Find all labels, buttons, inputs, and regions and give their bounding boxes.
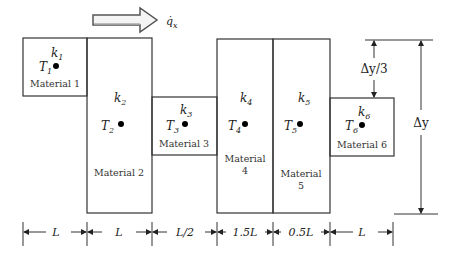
t6-label: T6	[345, 119, 358, 135]
width-5-label: 0.5L	[289, 226, 314, 239]
width-3-label: L/2	[175, 226, 194, 239]
k3-label: k3	[180, 103, 192, 119]
material-3-label: Material 3	[159, 138, 209, 149]
material-1-label: Material 1	[30, 78, 80, 89]
material-5-label: Material	[280, 168, 321, 179]
third-height-label: Δy/3	[360, 62, 387, 76]
t5-node	[297, 121, 303, 127]
t1-label: T1	[39, 60, 52, 76]
t3-label: T3	[166, 119, 179, 135]
material-2-label: Material 2	[94, 167, 144, 178]
t5-label: T5	[284, 119, 297, 135]
width-2-label: L	[114, 226, 122, 239]
t4-node	[242, 121, 248, 127]
width-6-label: L	[357, 226, 365, 239]
material-4-label: Material	[224, 153, 265, 164]
material-4-number: 4	[242, 165, 248, 176]
k2-label: k2	[114, 91, 126, 107]
k4-label: k4	[240, 91, 252, 107]
material-6-label: Material 6	[337, 139, 387, 150]
heat-flux-label: q̇x	[166, 15, 178, 30]
t1-node	[53, 63, 59, 69]
width-4-label: 1.5L	[233, 226, 258, 239]
t6-node	[359, 122, 365, 128]
t2-label: T2	[101, 119, 114, 135]
t4-label: T4	[228, 119, 241, 135]
t2-node	[118, 121, 124, 127]
t3-node	[182, 121, 188, 127]
k6-label: k6	[358, 105, 370, 121]
composite-wall-diagram: q̇x k1 T1 Material 1 k2 T2 Material 2 k3…	[0, 0, 457, 264]
width-dimension-ticks	[23, 222, 393, 246]
material-5-number: 5	[298, 180, 304, 191]
heat-flux-arrow-icon	[93, 8, 157, 32]
k1-label: k1	[51, 46, 63, 62]
width-1-label: L	[51, 226, 59, 239]
full-height-label: Δy	[413, 116, 429, 130]
k5-label: k5	[298, 91, 310, 107]
